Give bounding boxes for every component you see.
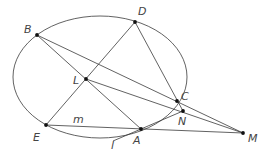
- label-l: L: [73, 74, 79, 87]
- label-m: M: [248, 132, 258, 145]
- line-label-m: m: [73, 113, 84, 126]
- point-m: [241, 131, 245, 135]
- label-a: A: [132, 134, 141, 147]
- line-labels: ml: [73, 113, 114, 152]
- point-a: [139, 127, 143, 131]
- segment-d-n: [135, 22, 183, 111]
- circle-conic: [13, 16, 187, 138]
- point-e: [44, 123, 48, 127]
- point-b: [35, 33, 39, 37]
- point-c: [175, 99, 179, 103]
- tangent-line-l: [113, 111, 183, 141]
- point-n: [181, 109, 185, 113]
- label-e: E: [33, 131, 40, 144]
- geometry-diagram: BDLCNEAM ml: [0, 0, 265, 160]
- point-l: [84, 77, 88, 81]
- segment-b-m: [37, 35, 243, 133]
- points: [35, 20, 245, 135]
- segment-e-m: [46, 125, 243, 133]
- segment-d-e: [46, 22, 135, 125]
- label-c: C: [181, 90, 189, 103]
- segment-b-a: [37, 35, 141, 129]
- point-d: [133, 20, 137, 24]
- label-n: N: [178, 115, 186, 128]
- label-b: B: [24, 23, 32, 36]
- label-d: D: [138, 5, 146, 18]
- segment-l-m: [86, 79, 243, 133]
- line-label-l: l: [111, 139, 114, 152]
- segments: [37, 22, 243, 133]
